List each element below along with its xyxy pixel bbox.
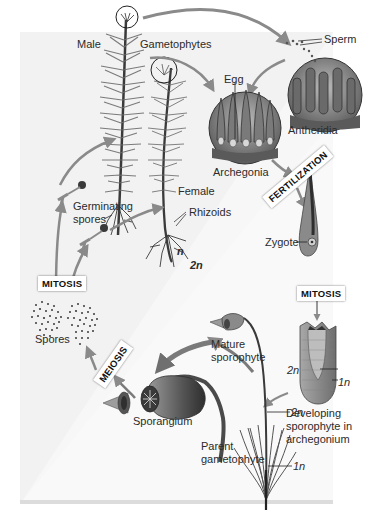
parent-1n-text: 1n xyxy=(293,460,305,472)
label-mature-line1: Mature xyxy=(211,338,245,350)
parent-2n-text: 2n xyxy=(291,406,303,418)
dev-1n-text: 1n xyxy=(338,376,350,388)
developing-sporophyte xyxy=(300,322,338,404)
label-haploid-n: n xyxy=(177,245,184,257)
label-sporangium: Sporangium xyxy=(133,415,192,427)
label-parent-line2: gametophyte xyxy=(201,453,265,465)
label-diploid-2n: 2n xyxy=(190,259,203,271)
label-zygote: Zygote xyxy=(265,236,299,248)
mitosis-box-right: MITOSIS xyxy=(297,286,345,301)
label-dev-2n: 2n xyxy=(287,364,299,376)
mitosis-box-left: MITOSIS xyxy=(38,276,86,291)
label-rhizoids: Rhizoids xyxy=(189,206,231,218)
label-parent-2n: 2n xyxy=(291,406,303,418)
label-antheridia: Antheridia xyxy=(288,124,338,136)
label-female: Female xyxy=(178,185,215,197)
label-sperm: Sperm xyxy=(324,33,356,45)
label-germinating-line2: spores xyxy=(73,213,106,225)
label-parent-1n: 1n xyxy=(293,460,305,472)
label-germinating-line1: Germinating xyxy=(73,200,133,212)
dev-2n-text: 2n xyxy=(287,364,299,376)
label-developing-line2: sporophyte in xyxy=(286,420,352,432)
label-parent-line1: Parent xyxy=(201,440,233,452)
label-archegonia: Archegonia xyxy=(213,166,269,178)
label-developing-line3: archegonium xyxy=(286,433,350,445)
label-mature-line2: sporophyte xyxy=(211,351,265,363)
label-egg: Egg xyxy=(224,73,244,85)
label-male: Male xyxy=(77,38,101,50)
label-gametophytes: Gametophytes xyxy=(140,38,212,50)
label-dev-1n: 1n xyxy=(338,376,350,388)
label-spores: Spores xyxy=(35,333,70,345)
moss-life-cycle-diagram: Male Gametophytes Sperm Egg Antheridia A… xyxy=(0,0,379,510)
